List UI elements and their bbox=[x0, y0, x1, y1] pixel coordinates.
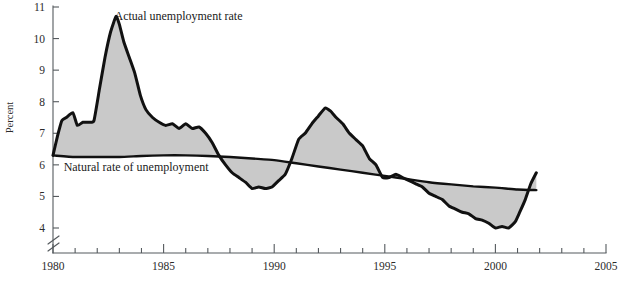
y-tick-label: 10 bbox=[34, 33, 46, 45]
y-axis-title: Percent bbox=[4, 102, 15, 134]
chart-svg: 4567891011198019851990199520002005Percen… bbox=[0, 0, 625, 285]
unemployment-chart: 4567891011198019851990199520002005Percen… bbox=[0, 0, 625, 285]
y-tick-label: 6 bbox=[39, 159, 45, 171]
actual-series-label: Actual unemployment rate bbox=[115, 9, 243, 23]
x-tick-label: 1980 bbox=[42, 260, 65, 272]
natural-series-label: Natural rate of unemployment bbox=[64, 160, 210, 174]
gap-area bbox=[54, 17, 220, 157]
y-tick-label: 5 bbox=[39, 190, 45, 202]
y-tick-label: 11 bbox=[34, 1, 45, 13]
x-tick-label: 1995 bbox=[373, 260, 396, 272]
y-tick-label: 9 bbox=[39, 64, 45, 76]
x-tick-label: 1990 bbox=[263, 260, 286, 272]
x-tick-label: 2000 bbox=[484, 260, 507, 272]
y-tick-label: 7 bbox=[39, 127, 45, 139]
y-tick-label: 8 bbox=[39, 96, 45, 108]
x-tick-label: 2005 bbox=[595, 260, 618, 272]
y-tick-label: 4 bbox=[39, 222, 45, 234]
x-tick-label: 1985 bbox=[152, 260, 175, 272]
